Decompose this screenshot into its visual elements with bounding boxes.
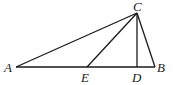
diagram-canvas: A B C D E: [0, 0, 173, 85]
segment-ac: [16, 13, 137, 67]
label-c: C: [133, 0, 142, 14]
segment-cb: [137, 13, 155, 67]
label-a: A: [3, 60, 12, 75]
label-d: D: [131, 70, 142, 85]
label-b: B: [157, 60, 165, 75]
label-e: E: [80, 70, 89, 85]
triangle-diagram: A B C D E: [0, 0, 173, 85]
segment-ce: [87, 13, 137, 67]
